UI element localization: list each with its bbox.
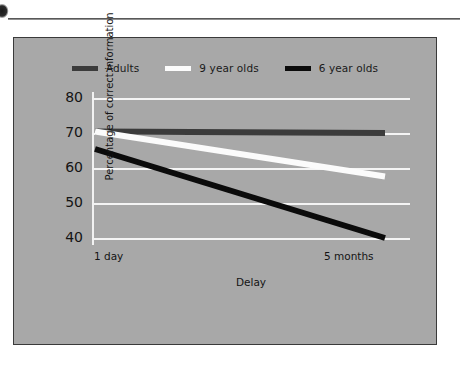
scan-artifact <box>0 2 13 19</box>
legend-item-6-year-olds: 6 year olds <box>285 62 378 74</box>
legend-swatch-9-year-olds <box>165 66 191 71</box>
legend-swatch-6-year-olds <box>285 66 311 71</box>
plot-area: 80 70 60 50 40 1 day 5 months Delay Perc… <box>92 98 410 245</box>
legend-item-9-year-olds: 9 year olds <box>165 62 258 74</box>
y-tick-label-50: 50 <box>65 194 83 210</box>
series-line-9-year-olds <box>95 132 385 177</box>
legend-swatch-adults <box>72 66 98 71</box>
legend-label-9-year-olds: 9 year olds <box>199 62 258 74</box>
figure-panel: Adults 9 year olds 6 year olds 80 70 60 … <box>13 37 437 345</box>
x-tick-label-5-months: 5 months <box>324 250 374 262</box>
series-lines <box>92 98 410 245</box>
legend-label-6-year-olds: 6 year olds <box>319 62 378 74</box>
y-tick-label-70: 70 <box>65 124 83 140</box>
horizontal-rule <box>8 18 460 20</box>
y-tick-label-40: 40 <box>65 229 83 245</box>
y-tick-label-80: 80 <box>65 89 83 105</box>
y-axis-title: Percentage of correct information <box>104 31 115 181</box>
series-line-6-year-olds <box>95 149 385 238</box>
series-line-adults <box>95 132 385 134</box>
x-tick-label-1-day: 1 day <box>94 250 123 262</box>
x-axis-title: Delay <box>92 276 410 288</box>
y-tick-label-60: 60 <box>65 159 83 175</box>
chart-legend: Adults 9 year olds 6 year olds <box>14 62 436 74</box>
